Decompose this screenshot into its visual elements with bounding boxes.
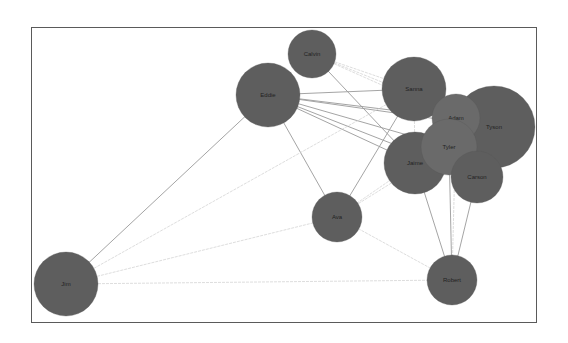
edge-jim-robert [66,280,452,284]
node-jim[interactable]: Jim [34,252,98,316]
node-label: Calvin [304,51,321,57]
node-label: Ava [332,214,343,220]
edge-jim-sanna [66,89,414,284]
node-label: Carson [467,174,486,180]
node-label: Jaime [407,160,424,166]
node-label: Tyson [486,124,502,130]
edge-jim-ava [66,217,337,284]
node-robert[interactable]: Robert [427,255,477,305]
node-label: Eddie [260,92,276,98]
edge-jim-eddie [66,95,268,284]
network-graph: CalvinEddieSannaTysonAdamJaimeTylerCarso… [0,0,568,343]
node-label: Jim [61,281,70,287]
node-label: Robert [443,277,461,283]
node-eddie[interactable]: Eddie [236,63,300,127]
node-carson[interactable]: Carson [451,151,503,203]
node-calvin[interactable]: Calvin [288,30,336,78]
node-label: Sanna [405,86,423,92]
node-ava[interactable]: Ava [312,192,362,242]
node-label: Tyler [442,144,455,150]
